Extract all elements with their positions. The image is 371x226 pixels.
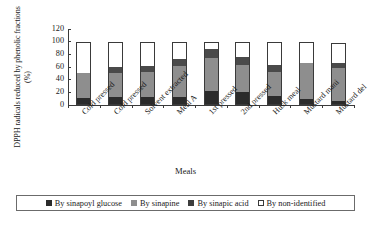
chart-legend: By sinapoyl glucoseBy sinapineBy sinapic… xyxy=(16,195,355,211)
plot-area: 020406080100120 xyxy=(68,29,354,105)
y-tick-label: 120 xyxy=(52,24,64,34)
bar-segment-sinapine xyxy=(235,65,250,92)
bar-segment-sinapic-acid xyxy=(172,59,187,65)
bar-segment-sinapic-acid xyxy=(331,63,346,68)
legend-label: By sinapic acid xyxy=(197,199,248,208)
square-dark-icon xyxy=(46,200,52,206)
x-tick-mark xyxy=(163,105,164,108)
bar-segment-non-identified xyxy=(108,42,123,67)
y-tick-mark xyxy=(68,54,71,55)
y-tick-label: 100 xyxy=(52,36,64,46)
square-white-icon xyxy=(258,200,264,206)
bar-segment-sinapine xyxy=(76,73,91,98)
y-tick-label: 80 xyxy=(56,49,64,59)
legend-label: By non-identified xyxy=(267,199,326,208)
x-tick-mark xyxy=(322,105,323,108)
bar-segment-non-identified xyxy=(172,42,187,60)
bar-segment-non-identified xyxy=(267,42,282,65)
y-tick-label: 60 xyxy=(56,62,64,72)
bar-segment-non-identified xyxy=(76,42,91,74)
x-tick-mark xyxy=(290,105,291,108)
bar-segment-non-identified xyxy=(331,43,346,63)
bar-segment-non-identified xyxy=(235,42,250,57)
legend-entry-3[interactable]: By sinapic acid xyxy=(188,199,248,208)
x-tick-mark xyxy=(68,105,69,108)
legend-entry-4[interactable]: By non-identified xyxy=(258,199,326,208)
bar-segment-non-identified xyxy=(140,42,155,67)
y-tick-mark xyxy=(68,92,71,93)
y-tick-mark xyxy=(68,41,71,42)
y-tick-label: 0 xyxy=(60,100,64,110)
y-tick-mark xyxy=(68,29,71,30)
bar-segment-sinapic-acid xyxy=(235,57,250,65)
bar-segment-sinapic-acid xyxy=(267,65,282,72)
legend-label: By sinapine xyxy=(140,199,179,208)
x-tick-mark xyxy=(259,105,260,108)
bar-segment-sinapine xyxy=(204,58,219,91)
bar-segment-sinapine xyxy=(299,63,314,99)
x-tick-mark xyxy=(132,105,133,108)
legend-label: By sinapoyl glucose xyxy=(55,199,122,208)
bar-segment-sinapic-acid xyxy=(140,66,155,72)
y-tick-mark xyxy=(68,79,71,80)
bar-segment-non-identified xyxy=(299,42,314,63)
chart-figure: DPPH radicals reduced by phenolic fracti… xyxy=(0,0,371,226)
y-tick-mark xyxy=(68,67,71,68)
square-gray-icon xyxy=(131,200,137,206)
y-tick-label: 20 xyxy=(56,87,64,97)
square-darkgray-icon xyxy=(188,200,194,206)
legend-entry-2[interactable]: By sinapine xyxy=(131,199,179,208)
bar-segment-sinapic-acid xyxy=(108,67,123,73)
x-axis-title: Meals xyxy=(0,166,371,176)
legend-entry-1[interactable]: By sinapoyl glucose xyxy=(46,199,122,208)
bar-segment-sinapic-acid xyxy=(204,49,219,59)
x-tick-mark xyxy=(354,105,355,108)
y-axis-title: DPPH radicals reduced by phenolic fracti… xyxy=(13,2,43,152)
bar-segment-non-identified xyxy=(204,42,219,49)
y-tick-label: 40 xyxy=(56,74,64,84)
x-tick-mark xyxy=(195,105,196,108)
x-tick-mark xyxy=(227,105,228,108)
x-tick-mark xyxy=(100,105,101,108)
